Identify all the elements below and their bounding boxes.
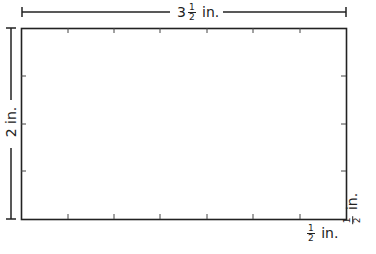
unit-width-label: 12 in.: [305, 224, 338, 243]
rectangle-diagram: [0, 0, 376, 254]
unit-height-label: 12 in.: [343, 193, 362, 226]
width-whole: 3: [177, 4, 186, 20]
rectangle: [22, 29, 347, 220]
unit-width-fraction: 12: [307, 224, 315, 243]
height-label: 2 in.: [3, 103, 19, 142]
width-fraction: 12: [188, 3, 196, 22]
width-unit: in.: [202, 4, 219, 20]
unit-height-fraction: 12: [343, 216, 362, 224]
width-label: 312 in.: [173, 3, 223, 22]
